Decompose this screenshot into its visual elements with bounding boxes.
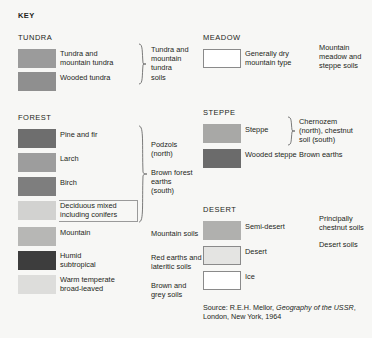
color-swatch: [18, 129, 56, 148]
soil-description: Podzols (north): [151, 140, 207, 158]
source-title: Geography of the USSR: [276, 303, 354, 312]
color-swatch: [18, 177, 56, 196]
group-title-forest: FOREST: [18, 113, 198, 122]
soil-description: Tundra and mountain tundra soils: [151, 45, 203, 82]
color-swatch: [203, 221, 241, 240]
group-title-desert: DESERT: [203, 205, 365, 214]
color-swatch: [203, 271, 241, 290]
soil-description: Mountain soils: [151, 229, 207, 238]
soil-description: Brown forest earths (south): [151, 168, 207, 196]
soil-description: Mountain meadow and steppe soils: [319, 43, 372, 71]
legend-group-meadow: MEADOW Generally dry mountain type Mount…: [203, 33, 365, 68]
legend-column-right: MEADOW Generally dry mountain type Mount…: [203, 33, 365, 294]
soil-description: Desert soils: [319, 240, 372, 249]
legend-group-steppe: STEPPE Steppe Wooded steppe Chernozem (n…: [203, 108, 365, 168]
legend-column-left: TUNDRA Tundra and mountain tundra Wooded…: [18, 33, 198, 298]
soil-description: Principally chestnut soils: [319, 214, 372, 232]
legend-group-desert: DESERT Semi-desert Desert Ice Principall…: [203, 205, 365, 290]
key-title: KEY: [18, 11, 35, 20]
color-swatch: [203, 49, 241, 68]
soil-description: Brown earths: [299, 150, 372, 159]
color-swatch: [18, 72, 56, 91]
soil-description: Brown and grey soils: [151, 281, 207, 299]
soil-description: Red earths and lateritic soils: [151, 253, 207, 271]
group-title-tundra: TUNDRA: [18, 33, 198, 42]
label-bracket: [59, 200, 138, 222]
color-swatch: [18, 251, 56, 270]
source-prefix: Source: R.E.H. Mellor,: [203, 303, 276, 312]
source-citation: Source: R.E.H. Mellor, Geography of the …: [203, 303, 368, 322]
legend-group-tundra: TUNDRA Tundra and mountain tundra Wooded…: [18, 33, 198, 91]
legend-item-label: Ice: [241, 271, 365, 290]
color-swatch: [18, 153, 56, 172]
color-swatch: [18, 201, 56, 220]
color-swatch: [18, 275, 56, 294]
group-title-meadow: MEADOW: [203, 33, 365, 42]
color-swatch: [18, 227, 56, 246]
group-title-steppe: STEPPE: [203, 108, 365, 117]
color-swatch: [18, 49, 56, 68]
color-swatch: [203, 124, 241, 143]
soil-description: Chernozem (north), chestnut soil (south): [299, 117, 372, 145]
legend-group-forest: FOREST Pine and fir Larch Birch Deciduou…: [18, 113, 198, 294]
color-swatch: [203, 246, 241, 265]
color-swatch: [203, 149, 241, 168]
legend-item: Ice: [203, 271, 365, 290]
